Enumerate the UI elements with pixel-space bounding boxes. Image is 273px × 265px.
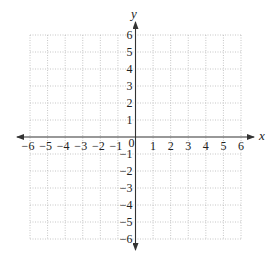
x-tick-label: 5 [220, 139, 226, 153]
y-tick-label: −3 [120, 181, 133, 195]
y-tick-label: 5 [127, 45, 133, 59]
y-tick-label: 4 [127, 62, 133, 76]
y-tick-label: 1 [127, 113, 133, 127]
y-tick-label: 2 [127, 96, 133, 110]
x-tick-label: 4 [203, 139, 209, 153]
x-tick-label: −4 [57, 139, 70, 153]
x-axis-label: x [258, 128, 265, 143]
y-tick-label: −2 [120, 164, 133, 178]
coordinate-plane: −6−5−4−3−2−10123456 −6−5−4−3−2−1123456 x… [0, 0, 273, 265]
x-tick-label: −6 [22, 139, 35, 153]
x-tick-label: −3 [74, 139, 87, 153]
y-tick-label: −1 [120, 147, 133, 161]
x-tick-label: 3 [185, 139, 191, 153]
y-tick-label: 3 [127, 79, 133, 93]
y-tick-label: −6 [120, 232, 133, 246]
y-axis-label: y [129, 6, 137, 21]
x-tick-label: 6 [238, 139, 244, 153]
x-tick-label: −2 [92, 139, 105, 153]
axes [17, 22, 254, 250]
x-tick-label: 2 [168, 139, 174, 153]
y-tick-label: −5 [120, 215, 133, 229]
y-tick-label: 6 [127, 28, 133, 42]
x-tick-label: −5 [39, 139, 52, 153]
x-tick-label: 1 [150, 139, 156, 153]
y-tick-label: −4 [120, 198, 133, 212]
x-tick-labels: −6−5−4−3−2−10123456 [22, 136, 244, 153]
